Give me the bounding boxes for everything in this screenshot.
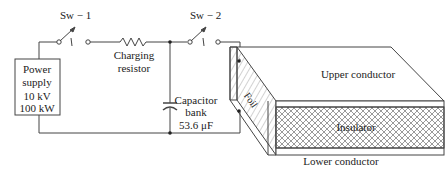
resistor-symbol (120, 38, 146, 46)
power-supply-label-2: supply (22, 76, 52, 88)
circuit-diagram: Sw − 1 Sw − 2 Power supply 10 kV 100 kW … (0, 0, 448, 174)
power-supply-power: 100 kW (19, 102, 55, 114)
capacitor-label-1: Capacitor (175, 94, 218, 106)
insulator-label: Insulator (336, 121, 375, 133)
resistor-label-2: resistor (118, 62, 151, 74)
sw2-label: Sw − 2 (190, 9, 221, 21)
resistor-label-1: Charging (114, 49, 155, 61)
capacitor-label-2: bank (185, 106, 207, 118)
sw1-label: Sw − 1 (60, 9, 91, 21)
power-supply-voltage: 10 kV (23, 90, 50, 102)
power-supply-label-1: Power (23, 63, 51, 75)
lower-conductor-label: Lower conductor (303, 155, 379, 167)
capacitor-value: 53.6 μF (179, 119, 213, 131)
upper-conductor-label: Upper conductor (321, 68, 396, 80)
